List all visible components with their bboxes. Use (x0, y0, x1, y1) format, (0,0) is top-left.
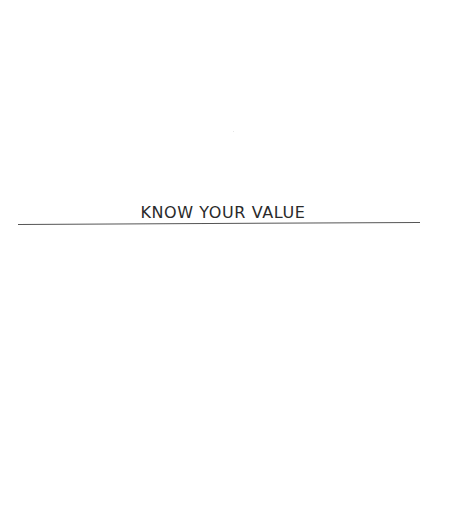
document-page: KNOW YOUR VALUE (0, 0, 451, 513)
section-heading: KNOW YOUR VALUE (18, 203, 420, 223)
section-heading-block: KNOW YOUR VALUE (18, 203, 420, 225)
scan-speck (233, 131, 234, 132)
